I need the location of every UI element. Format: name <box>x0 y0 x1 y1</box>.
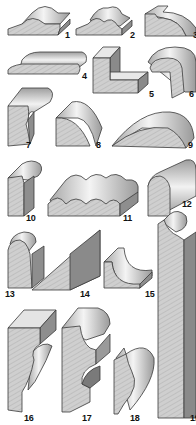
molding-10-shape <box>8 161 42 216</box>
molding-3-shape <box>145 6 196 36</box>
molding-19-shape <box>158 211 196 418</box>
molding-4-shape <box>8 52 87 74</box>
label-14: 14 <box>80 290 89 299</box>
molding-15-shape <box>104 248 152 288</box>
molding-2-shape <box>76 7 132 35</box>
label-10: 10 <box>26 214 35 223</box>
label-5: 5 <box>149 90 154 99</box>
label-12: 12 <box>182 200 191 209</box>
label-18: 18 <box>130 414 139 423</box>
label-9: 9 <box>188 141 193 150</box>
label-19: 19 <box>190 414 196 423</box>
molding-1-shape <box>8 7 70 36</box>
label-15: 15 <box>145 290 154 299</box>
molding-13-shape <box>8 232 44 288</box>
label-13: 13 <box>5 290 14 299</box>
label-3: 3 <box>193 31 196 40</box>
molding-11-shape <box>48 174 138 216</box>
label-7: 7 <box>26 141 31 150</box>
label-4: 4 <box>82 72 87 81</box>
molding-9-shape <box>112 112 194 148</box>
molding-16-shape <box>8 310 56 412</box>
molding-7-shape <box>8 88 53 146</box>
label-8: 8 <box>96 141 101 150</box>
label-17: 17 <box>82 414 91 423</box>
molding-profiles-diagram: 1 2 3 4 5 6 7 8 9 10 11 12 13 14 15 16 1… <box>0 0 196 425</box>
molding-18-shape <box>114 348 154 414</box>
molding-5-shape <box>93 47 148 93</box>
label-16: 16 <box>24 414 33 423</box>
label-1: 1 <box>65 31 70 40</box>
molding-17-shape <box>62 308 110 412</box>
label-11: 11 <box>123 214 132 223</box>
label-6: 6 <box>189 90 194 99</box>
label-2: 2 <box>130 31 135 40</box>
